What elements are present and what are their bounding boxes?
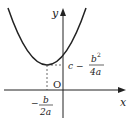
vertex-y-prefix: c − [68, 61, 83, 71]
origin-label: O [53, 79, 61, 90]
parabola-diagram: y x O c − b 2 4a − b 2a [0, 0, 132, 122]
vertex-y-exponent: 2 [97, 51, 101, 58]
vertex-x-sign: − [31, 98, 39, 108]
vertex-x-numerator: b [43, 95, 49, 105]
vertex-y-denominator: 4a [89, 67, 101, 77]
y-axis-label: y [51, 7, 59, 20]
y-axis-arrow-icon [60, 8, 66, 16]
parabola-curve [8, 8, 86, 65]
x-axis-arrow-icon [118, 87, 126, 93]
vertex-x-denominator: 2a [39, 107, 51, 117]
x-axis-label: x [120, 96, 127, 109]
